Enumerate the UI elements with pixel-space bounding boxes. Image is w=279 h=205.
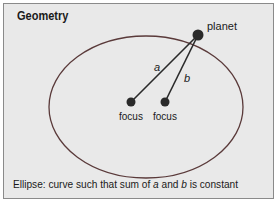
ellipse-diagram: planet a b focus focus xyxy=(0,0,279,205)
caption: Ellipse: curve such that sum of a and b … xyxy=(13,178,238,190)
line-a xyxy=(131,35,198,102)
focus-point-1 xyxy=(127,98,136,107)
focus-label-2: focus xyxy=(153,111,177,122)
ellipse-curve xyxy=(49,36,243,178)
caption-mid: and xyxy=(159,178,182,190)
label-a: a xyxy=(154,61,160,73)
caption-suffix: is constant xyxy=(187,178,238,190)
focus-label-1: focus xyxy=(119,111,143,122)
line-b xyxy=(165,35,198,102)
planet-point xyxy=(193,30,204,41)
label-b: b xyxy=(184,72,190,84)
planet-label: planet xyxy=(207,20,237,32)
caption-prefix: Ellipse: curve such that sum of xyxy=(13,178,153,190)
focus-point-2 xyxy=(161,98,170,107)
